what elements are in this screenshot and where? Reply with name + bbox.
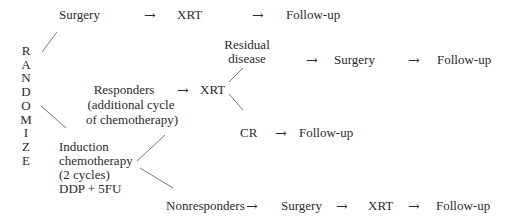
connector-induction-to-responders <box>137 135 165 161</box>
arrow-icon: → <box>336 199 348 213</box>
arrow-icon: → <box>177 83 189 97</box>
arrow-icon: → <box>306 53 318 67</box>
induction-label: Induction chemotherapy (2 cycles) DDP + … <box>59 140 133 196</box>
arrow-icon: → <box>252 8 264 22</box>
connector-randomize-to-induction <box>41 106 66 128</box>
randomize-letter: E <box>20 154 32 168</box>
arrow-icon: → <box>408 199 420 213</box>
arm1-xrt: XRT <box>177 8 202 22</box>
randomize-letter: N <box>20 71 32 85</box>
arrow-icon: → <box>246 199 258 213</box>
residual-line-2: disease <box>222 52 272 66</box>
randomize-letter: R <box>20 44 32 58</box>
connector-randomize-to-surgery <box>42 32 57 52</box>
randomize-letter: Z <box>20 140 32 154</box>
residual-line-1: Residual <box>222 38 272 52</box>
connector-xrt-to-cr <box>229 94 243 110</box>
connector-induction-to-nonresponders <box>140 168 173 188</box>
residual-disease-label: Residual disease <box>222 38 272 66</box>
randomize-letter: D <box>20 85 32 99</box>
residual-surgery: Surgery <box>334 53 375 67</box>
nonresponders-label: Nonresponders <box>166 199 245 213</box>
induction-line-2: chemotherapy <box>59 154 133 168</box>
nonresponders-follow-up: Follow-up <box>436 199 490 213</box>
arm1-surgery: Surgery <box>59 8 100 22</box>
responders-xrt: XRT <box>200 83 225 97</box>
arm1-follow-up: Follow-up <box>286 8 340 22</box>
randomize-letter: M <box>20 113 32 127</box>
randomize-label: R A N D O M I Z E <box>20 44 32 167</box>
arrow-icon: → <box>144 8 156 22</box>
nonresponders-surgery: Surgery <box>281 199 322 213</box>
arrow-icon: → <box>408 53 420 67</box>
connector-xrt-to-residual <box>229 68 243 82</box>
randomize-letter: I <box>20 126 32 140</box>
randomize-letter: O <box>20 99 32 113</box>
nonresponders-xrt: XRT <box>368 199 393 213</box>
responders-line-1: Responders <box>72 83 176 97</box>
residual-follow-up: Follow-up <box>437 53 491 67</box>
cr-follow-up: Follow-up <box>299 126 353 140</box>
responders-label: Responders (additional cycle of chemothe… <box>86 83 176 127</box>
induction-line-3: (2 cycles) <box>59 168 133 182</box>
randomize-letter: A <box>20 58 32 72</box>
cr-label: CR <box>240 126 257 140</box>
responders-line-3: of chemotherapy) <box>86 113 176 127</box>
induction-line-1: Induction <box>59 140 133 154</box>
responders-line-2: (additional cycle <box>86 98 176 112</box>
arrow-icon: → <box>275 126 287 140</box>
induction-line-4: DDP + 5FU <box>59 182 133 196</box>
